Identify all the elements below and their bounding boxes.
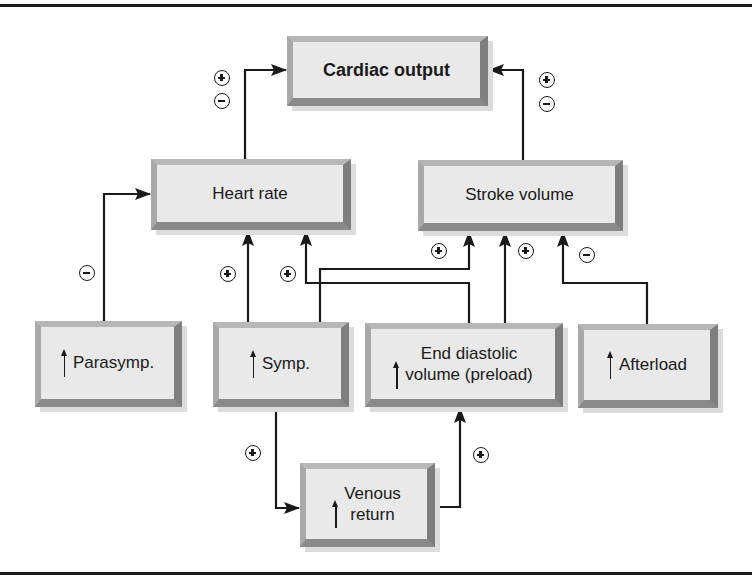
- plus-sign-icon: [280, 266, 296, 282]
- node-label: Parasymp.: [73, 352, 154, 373]
- node-sympathetic: Symp.: [213, 322, 349, 407]
- increase-arrow-icon: [250, 350, 258, 378]
- node-heart-rate: Heart rate: [151, 159, 351, 230]
- increase-arrow-icon: [393, 361, 401, 389]
- plus-sign-icon: [431, 243, 447, 259]
- node-venous-return: Venous return: [300, 463, 435, 547]
- increase-arrow-icon: [607, 351, 615, 379]
- edge-afterload-to-stroke-volume: [563, 232, 647, 324]
- increase-arrow-icon: [332, 500, 340, 528]
- node-label-group: End diastolic volume (preload): [405, 343, 533, 386]
- node-label: Heart rate: [212, 183, 288, 204]
- plus-sign-icon: [214, 70, 230, 86]
- plus-sign-icon: [539, 72, 555, 88]
- increase-arrow-icon: [61, 349, 69, 377]
- edge-symp-to-venous-return: [276, 406, 299, 508]
- edge-stroke-volume-to-cardiac-output: [489, 70, 523, 160]
- node-label-group: Venous return: [344, 483, 401, 526]
- minus-sign-icon: [539, 96, 555, 112]
- node-afterload: Afterload: [578, 324, 718, 408]
- node-parasympathetic: Parasymp.: [35, 321, 182, 407]
- plus-sign-icon: [473, 447, 489, 463]
- minus-sign-icon: [214, 93, 230, 109]
- plus-sign-icon: [245, 445, 261, 461]
- node-label-line1: End diastolic: [405, 343, 533, 364]
- minus-sign-icon: [579, 247, 595, 263]
- edge-heart-rate-to-cardiac-output: [245, 70, 286, 160]
- plus-sign-icon: [220, 266, 236, 282]
- edge-venous-return-to-edv: [434, 408, 460, 507]
- node-cardiac-output: Cardiac output: [287, 36, 488, 106]
- plus-sign-icon: [518, 243, 534, 259]
- edge-parasymp-to-heart-rate: [104, 194, 150, 321]
- node-label-line2: volume (preload): [405, 364, 533, 385]
- node-label: Afterload: [619, 354, 687, 375]
- node-label-line1: Venous: [344, 483, 401, 504]
- minus-sign-icon: [79, 265, 95, 281]
- node-label: Cardiac output: [323, 59, 450, 82]
- node-label-line2: return: [344, 504, 401, 525]
- node-label: Stroke volume: [465, 184, 574, 205]
- node-stroke-volume: Stroke volume: [418, 160, 623, 231]
- node-end-diastolic-volume: End diastolic volume (preload): [365, 323, 563, 407]
- node-label: Symp.: [262, 353, 310, 374]
- edge-symp-to-stroke-volume: [320, 232, 469, 322]
